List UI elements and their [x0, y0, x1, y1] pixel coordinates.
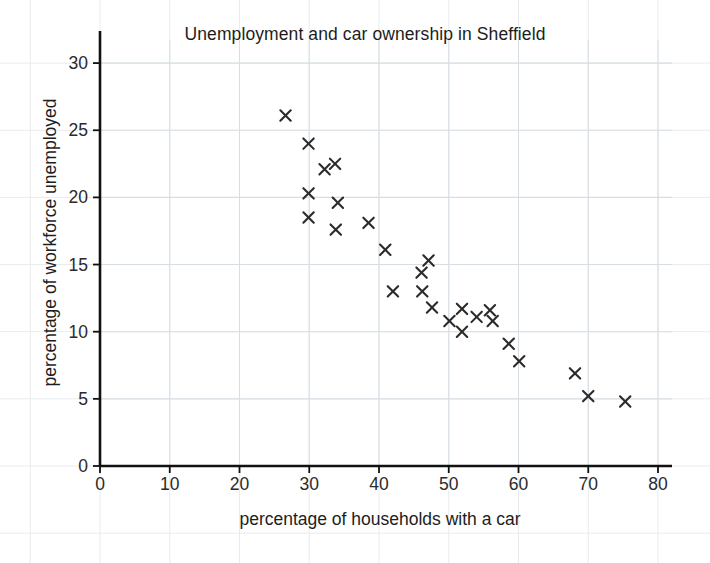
chart-title: Unemployment and car ownership in Sheffi… — [130, 24, 600, 45]
y-tick-label-0: 0 — [48, 456, 88, 477]
data-point-marker — [303, 138, 313, 148]
x-axis-title: percentage of households with a car — [100, 509, 660, 530]
y-tick-label-30: 30 — [48, 53, 88, 74]
x-tick-label-50: 50 — [439, 474, 458, 495]
x-tick-label-10: 10 — [160, 474, 179, 495]
data-point-marker — [380, 245, 390, 255]
x-tick-label-0: 0 — [95, 474, 105, 495]
data-point-marker — [417, 286, 427, 296]
y-tick-label-25: 25 — [48, 120, 88, 141]
data-point-marker — [471, 312, 481, 322]
data-point-marker — [570, 368, 580, 378]
scatter-chart-figure: Unemployment and car ownership in Sheffi… — [0, 0, 710, 563]
data-point-marker — [333, 198, 343, 208]
data-point-marker — [457, 304, 467, 314]
data-point-marker — [485, 305, 495, 315]
data-point-marker — [319, 164, 329, 174]
data-point-marker — [514, 356, 524, 366]
x-tick-label-70: 70 — [579, 474, 598, 495]
y-tick-label-5: 5 — [48, 388, 88, 409]
data-point-marker — [620, 396, 630, 406]
y-tick-label-20: 20 — [48, 187, 88, 208]
data-point-marker — [416, 267, 426, 277]
data-point-marker — [504, 339, 514, 349]
plot-area — [0, 0, 710, 563]
y-tick-label-15: 15 — [48, 254, 88, 275]
data-point-marker — [363, 218, 373, 228]
y-tick-label-10: 10 — [48, 321, 88, 342]
x-tick-label-30: 30 — [300, 474, 319, 495]
data-point-marker — [427, 302, 437, 312]
data-point-marker — [280, 110, 290, 120]
data-point-marker — [388, 286, 398, 296]
x-tick-label-20: 20 — [230, 474, 249, 495]
data-point-marker — [330, 159, 340, 169]
data-point-marker — [303, 212, 313, 222]
x-tick-label-60: 60 — [509, 474, 528, 495]
x-tick-label-40: 40 — [369, 474, 388, 495]
data-point-marker — [487, 316, 497, 326]
data-point-marker — [331, 224, 341, 234]
x-tick-label-80: 80 — [648, 474, 667, 495]
data-point-marker — [444, 316, 454, 326]
